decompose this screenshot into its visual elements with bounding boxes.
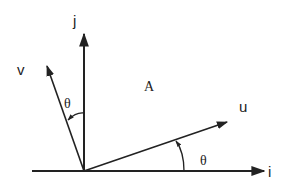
area-label-A: A [144, 79, 155, 94]
v-vector [47, 66, 84, 171]
angle-arc-i-u [176, 141, 184, 171]
vector-diagram: j v A u i θ θ [0, 0, 282, 184]
angle-arc-j-v [68, 113, 84, 120]
i-label: i [268, 163, 271, 180]
j-label: j [72, 12, 76, 29]
theta-label-lower: θ [200, 153, 207, 168]
theta-label-upper: θ [64, 96, 71, 111]
v-label: v [17, 61, 25, 78]
u-label: u [239, 98, 247, 115]
